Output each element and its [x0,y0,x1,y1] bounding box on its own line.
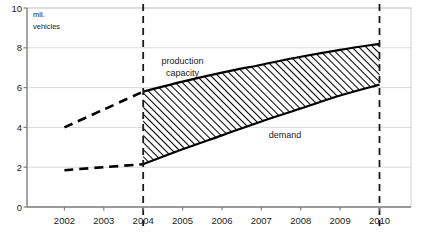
x-tick-label-2004: 2004 [133,215,154,226]
x-tick-label-2003: 2003 [93,215,114,226]
x-axis-tick-labels: 200220032004200520062007200820092010 [54,215,390,226]
production-capacity-vs-demand-chart: 0246810 20022003200420052006200720082009… [0,0,425,240]
y-tick-label-8: 8 [17,42,22,53]
production-capacity-label-line2: capacity [166,68,200,78]
x-tick-label-2009: 2009 [330,215,351,226]
x-tick-label-2005: 2005 [172,215,193,226]
x-tick-label-2010: 2010 [369,215,390,226]
y-tick-label-0: 0 [17,202,22,213]
y-axis-unit-label-line2: vehicles [33,22,60,31]
y-axis-unit-label-line1: mil. [33,10,45,19]
y-tick-label-10: 10 [11,3,22,14]
demand-label: demand [269,130,302,140]
chart-container: 0246810 20022003200420052006200720082009… [0,0,425,240]
y-tick-label-6: 6 [17,82,22,93]
y-tick-label-4: 4 [17,122,22,133]
x-tick-label-2002: 2002 [54,215,75,226]
production-capacity-label-line1: production [162,56,204,66]
y-tick-label-2: 2 [17,162,22,173]
x-tick-label-2006: 2006 [211,215,232,226]
x-tick-label-2008: 2008 [290,215,311,226]
x-tick-label-2007: 2007 [251,215,272,226]
